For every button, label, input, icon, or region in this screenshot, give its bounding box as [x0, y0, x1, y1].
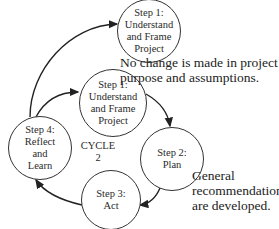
node-line: Step 2: — [157, 147, 186, 159]
node-line: Step 4: — [25, 124, 54, 136]
step4-node: Step 4: Reflect and Learn — [8, 116, 72, 180]
node-line: Step 1: — [134, 7, 163, 19]
annotation-line: recommendations — [192, 183, 279, 198]
cycle-label: CYCLE 2 — [76, 140, 120, 164]
annotation-line: General — [192, 168, 279, 183]
node-line: Learn — [28, 160, 52, 172]
node-line: Understand — [125, 19, 173, 31]
no-change-annotation: No change is made in project purpose and… — [120, 55, 278, 85]
node-line: Act — [103, 200, 118, 212]
cycle-label-line: 2 — [76, 152, 120, 164]
node-line: and Frame — [91, 103, 136, 115]
node-line: and Frame — [127, 31, 172, 43]
node-line: Understand — [89, 91, 137, 103]
step3-node: Step 3: Act — [81, 170, 141, 229]
cycle-label-line: CYCLE — [76, 140, 120, 152]
node-line: and — [32, 148, 47, 160]
node-line: Reflect — [25, 136, 55, 148]
node-line: Step 3: — [96, 188, 125, 200]
node-line: Plan — [163, 159, 182, 171]
node-line: Project — [134, 43, 164, 55]
annotation-line: No change is made in project — [120, 55, 278, 70]
general-annotation: General recommendations are developed. — [192, 168, 279, 213]
node-line: Project — [98, 115, 128, 127]
annotation-line: purpose and assumptions. — [120, 70, 278, 85]
annotation-line: are developed. — [192, 198, 279, 213]
step1-next-node: Step 1: Understand and Frame Project — [117, 0, 181, 63]
